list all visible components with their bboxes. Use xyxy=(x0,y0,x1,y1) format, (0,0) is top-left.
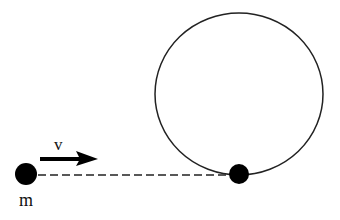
mass-ball xyxy=(15,163,37,185)
circular-loop xyxy=(155,13,323,175)
mass-label: m xyxy=(19,190,33,210)
loop-bottom-ball xyxy=(229,164,249,184)
velocity-label: v xyxy=(54,135,63,154)
velocity-arrow xyxy=(40,151,98,166)
loop-diagram: v m xyxy=(0,0,340,220)
